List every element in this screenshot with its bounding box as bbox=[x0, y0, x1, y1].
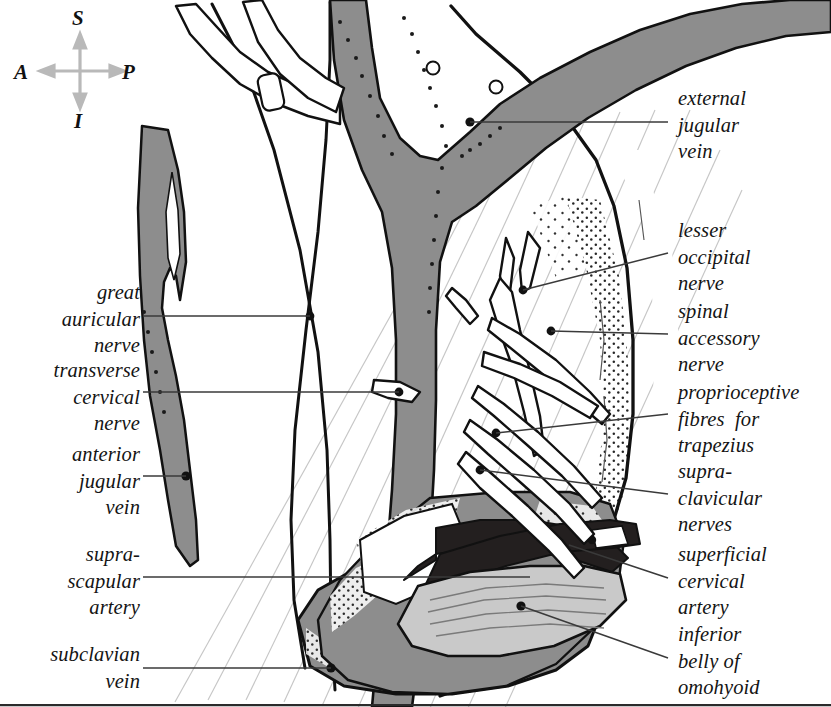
label-proprioceptive-fibres-for-trapezius: proprioceptivefibres fortrapezius bbox=[678, 379, 799, 459]
orientation-compass: S A P I bbox=[4, 4, 154, 136]
label-suprascapular-artery-line-1: supra- bbox=[86, 543, 140, 565]
label-great-auricular-nerve-line-1: great bbox=[97, 281, 140, 303]
label-transverse-cervical-nerve-line-2: cervical bbox=[73, 386, 140, 408]
compass-posterior: P bbox=[122, 60, 135, 85]
label-external-jugular-vein-line-3: vein bbox=[678, 140, 713, 162]
label-suprascapular-artery-line-2: scapular bbox=[67, 570, 140, 592]
label-proprioceptive-fibres-for-trapezius-line-3: trapezius bbox=[678, 434, 754, 456]
label-supraclavicular-nerves: supra-clavicularnerves bbox=[678, 458, 762, 538]
compass-anterior: A bbox=[14, 60, 28, 85]
label-proprioceptive-fibres-for-trapezius-line-2: fibres for bbox=[678, 408, 759, 430]
label-external-jugular-vein: externaljugularvein bbox=[678, 85, 746, 165]
label-anterior-jugular-vein-line-3: vein bbox=[105, 496, 140, 518]
label-supraclavicular-nerves-line-2: clavicular bbox=[678, 487, 762, 509]
label-transverse-cervical-nerve-line-3: nerve bbox=[94, 412, 140, 434]
label-transverse-cervical-nerve-line-1: transverse bbox=[54, 359, 140, 381]
anterior-jugular-vein bbox=[138, 126, 198, 566]
label-anterior-jugular-vein-line-2: jugular bbox=[79, 470, 140, 492]
label-inferior-belly-of-omohyoid-line-2: belly of bbox=[678, 650, 740, 672]
label-spinal-accessory-nerve-line-3: nerve bbox=[678, 353, 724, 375]
label-great-auricular-nerve: greatauricularnerve bbox=[4, 279, 140, 359]
jugular-tributaries bbox=[176, 0, 344, 124]
label-external-jugular-vein-line-1: external bbox=[678, 87, 746, 109]
label-proprioceptive-fibres-for-trapezius-line-1: proprioceptive bbox=[678, 381, 799, 403]
label-spinal-accessory-nerve-line-1: spinal bbox=[678, 300, 729, 322]
label-subclavian-vein-line-2: vein bbox=[105, 670, 140, 692]
label-inferior-belly-of-omohyoid-line-3: omohyoid bbox=[678, 676, 760, 698]
label-transverse-cervical-nerve: transversecervicalnerve bbox=[4, 357, 140, 437]
label-subclavian-vein: subclavianvein bbox=[4, 641, 140, 694]
label-subclavian-vein-line-1: subclavian bbox=[50, 643, 140, 665]
label-anterior-jugular-vein: anteriorjugularvein bbox=[4, 441, 140, 521]
label-lesser-occipital-nerve-line-3: nerve bbox=[678, 272, 724, 294]
label-suprascapular-artery-line-3: artery bbox=[89, 596, 140, 618]
label-suprascapular-artery: supra-scapularartery bbox=[4, 541, 140, 621]
label-lesser-occipital-nerve: lesseroccipitalnerve bbox=[678, 217, 751, 297]
label-superficial-cervical-artery: superficialcervicalartery bbox=[678, 541, 767, 621]
label-lesser-occipital-nerve-line-1: lesser bbox=[678, 219, 726, 241]
label-supraclavicular-nerves-line-3: nerves bbox=[678, 513, 732, 535]
compass-inferior: I bbox=[74, 109, 82, 134]
label-inferior-belly-of-omohyoid: inferiorbelly ofomohyoid bbox=[678, 621, 760, 701]
label-superficial-cervical-artery-line-2: cervical bbox=[678, 570, 745, 592]
label-superficial-cervical-artery-line-3: artery bbox=[678, 596, 729, 618]
label-supraclavicular-nerves-line-1: supra- bbox=[678, 460, 732, 482]
label-lesser-occipital-nerve-line-2: occipital bbox=[678, 246, 751, 268]
label-great-auricular-nerve-line-3: nerve bbox=[94, 334, 140, 356]
label-spinal-accessory-nerve: spinalaccessorynerve bbox=[678, 298, 760, 378]
label-spinal-accessory-nerve-line-2: accessory bbox=[678, 327, 760, 349]
label-anterior-jugular-vein-line-1: anterior bbox=[72, 443, 140, 465]
anatomy-figure-page: S A P I greatauricularnervetransversecer… bbox=[0, 0, 831, 707]
label-external-jugular-vein-line-2: jugular bbox=[678, 114, 739, 136]
label-superficial-cervical-artery-line-1: superficial bbox=[678, 543, 767, 565]
vessel-cross-sections bbox=[427, 62, 503, 94]
label-great-auricular-nerve-line-2: auricular bbox=[62, 308, 140, 330]
compass-superior: S bbox=[72, 6, 84, 31]
label-inferior-belly-of-omohyoid-line-1: inferior bbox=[678, 623, 741, 645]
